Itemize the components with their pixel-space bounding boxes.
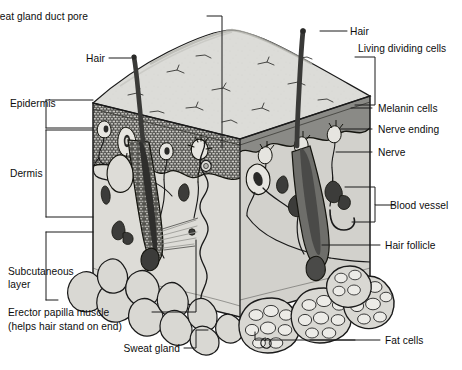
label-erector-papilla-muscle-line1: Erector papilla muscle xyxy=(8,307,110,318)
label-epidermis: Epidermis xyxy=(10,98,56,109)
label-fat-cells: Fat cells xyxy=(385,335,423,346)
label-sweat-gland-duct-pore: Sweat gland duct pore xyxy=(0,11,88,22)
label-subcutaneous-layer-line2: layer xyxy=(8,279,31,290)
label-erector-papilla-muscle-line2: (helps hair stand on end) xyxy=(8,321,122,332)
skin-cross-section-diagram: Sweat gland duct pore Hair Hair Living d… xyxy=(0,0,462,370)
sweat-duct-loop xyxy=(201,160,211,171)
label-sweat-gland: Sweat gland xyxy=(123,343,180,354)
label-melanin-cells: Melanin cells xyxy=(378,103,438,114)
label-nerve: Nerve xyxy=(378,147,406,158)
label-living-dividing-cells: Living dividing cells xyxy=(358,43,446,54)
label-blood-vessel: Blood vessel xyxy=(390,200,448,211)
label-hair-follicle: Hair follicle xyxy=(385,240,436,251)
label-dermis: Dermis xyxy=(10,168,43,179)
label-hair-left: Hair xyxy=(86,53,105,64)
label-subcutaneous-layer-line1: Subcutaneous xyxy=(8,266,74,277)
diagram-canvas: Sweat gland duct pore Hair Hair Living d… xyxy=(0,0,462,370)
label-hair-right: Hair xyxy=(350,26,369,37)
hair-tip-right xyxy=(300,28,306,34)
hair-tip-left xyxy=(131,54,136,59)
label-nerve-ending: Nerve ending xyxy=(378,124,439,135)
